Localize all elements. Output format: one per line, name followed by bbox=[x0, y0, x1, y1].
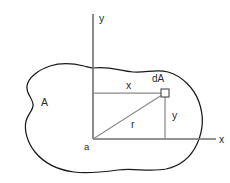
radial-distance-line bbox=[93, 93, 165, 139]
x-axis-label: x bbox=[219, 133, 225, 145]
y-axis-label: y bbox=[99, 12, 105, 24]
origin-label: a bbox=[84, 141, 90, 152]
differential-area-label: dA bbox=[152, 73, 165, 84]
region-area-label: A bbox=[41, 96, 48, 108]
radial-distance-label: r bbox=[131, 118, 135, 130]
vertical-distance-label: y bbox=[172, 109, 178, 121]
area-moment-diagram: y x A a dA x y r bbox=[0, 0, 230, 183]
differential-area-element-square bbox=[161, 89, 169, 97]
figure-container: y x A a dA x y r bbox=[0, 0, 230, 183]
horizontal-distance-label: x bbox=[126, 79, 132, 91]
